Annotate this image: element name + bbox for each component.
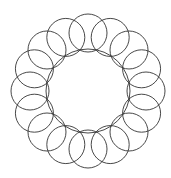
ring-circle bbox=[69, 130, 107, 168]
ring-circle bbox=[69, 14, 107, 52]
rosette-diagram bbox=[0, 0, 171, 178]
ring-circle bbox=[127, 72, 165, 110]
ring-circle bbox=[11, 72, 49, 110]
rosette-circles bbox=[11, 14, 165, 168]
inner-circle bbox=[46, 49, 130, 133]
